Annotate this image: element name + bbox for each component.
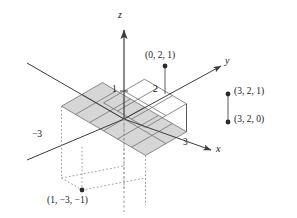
x-tick-label-neg3: −3	[32, 130, 42, 140]
diagram-canvas	[0, 0, 297, 218]
point-label-0-2-1: (0, 2, 1)	[145, 51, 175, 61]
dot-point-1-n3-n1	[80, 188, 85, 193]
y-axis	[124, 66, 221, 119]
point-label-3-2-1: (3, 2, 1)	[234, 87, 264, 97]
axis-label-z: z	[118, 10, 122, 20]
vertical-connectors	[165, 66, 228, 132]
axis-label-x: x	[216, 144, 220, 154]
y-tick-label-2: 2	[153, 85, 158, 95]
axis-label-y: y	[225, 56, 229, 66]
dot-point-0-2-1	[163, 64, 168, 69]
dot-point-3-2-0	[226, 120, 231, 125]
point-label-1-n3-n1: (1, −3, −1)	[47, 196, 88, 206]
dot-point-3-2-1	[226, 92, 231, 97]
z-tick-label-1: 1	[112, 85, 117, 95]
y-axis-negative-line	[27, 119, 124, 160]
figure-3d-coordinate-diagram: z y x 1 2 3 −3 (0, 2, 1) (3, 2, 1) (3, 2…	[0, 0, 297, 218]
point-label-3-2-0: (3, 2, 0)	[234, 115, 264, 125]
x-tick-label-3: 3	[183, 138, 188, 148]
